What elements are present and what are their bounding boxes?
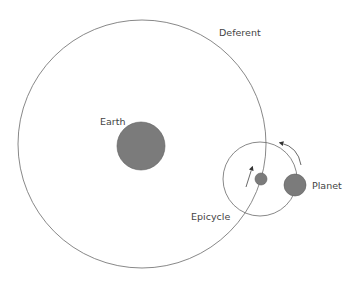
planet-label: Planet	[312, 180, 342, 191]
diagram-svg: Deferent Earth Epicycle Planet	[0, 0, 354, 281]
epicycle-diagram: Deferent Earth Epicycle Planet	[0, 0, 354, 281]
planet-body	[284, 174, 306, 196]
epicycle-center-dot	[255, 173, 267, 185]
earth-label: Earth	[100, 116, 125, 127]
deferent-direction-arrow-icon	[246, 168, 252, 187]
epicycle-direction-arrow-icon	[281, 143, 301, 165]
earth-body	[117, 122, 165, 170]
epicycle-label: Epicycle	[191, 211, 230, 222]
deferent-label: Deferent	[219, 27, 261, 38]
